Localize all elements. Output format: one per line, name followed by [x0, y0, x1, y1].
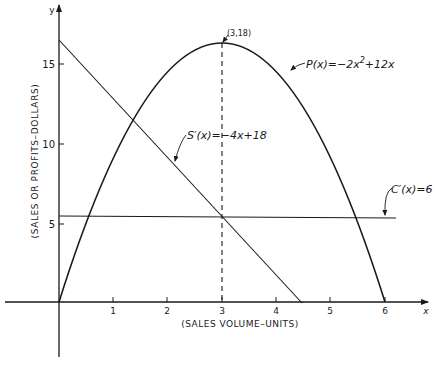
x-tick-labels: 1 2 3 4 5 6	[110, 306, 388, 316]
s-prime-label: S′(x)=−4x+18	[187, 129, 267, 142]
p-curve-label: P(x)=−2x2+12x	[306, 56, 395, 71]
y-tick-labels: 5 10 15	[42, 59, 55, 230]
chart: 1 2 3 4 5 6 5 10 15 y x (SALES VOLUME–UN…	[0, 0, 435, 365]
s-prime-line	[59, 40, 302, 303]
x-tick-label: 3	[219, 306, 225, 316]
peak-label: (3,18)	[227, 29, 251, 38]
x-tick-label: 2	[164, 306, 170, 316]
y-ticks	[59, 64, 64, 224]
x-tick-label: 1	[110, 306, 116, 316]
chart-canvas: 1 2 3 4 5 6 5 10 15 y x (SALES VOLUME–UN…	[0, 0, 435, 365]
y-axis-letter: y	[49, 5, 55, 15]
c-prime-line	[59, 216, 396, 218]
p-label-main: P(x)=−2x	[306, 58, 360, 71]
y-tick-label: 10	[42, 139, 55, 150]
y-tick-label: 15	[42, 59, 55, 70]
x-ticks	[113, 297, 385, 302]
s-label-pointer	[175, 135, 186, 161]
x-tick-label: 5	[327, 306, 333, 316]
y-axis-title: (SALES OR PROFITS–DOLLARS)	[30, 84, 40, 239]
y-tick-label: 5	[49, 219, 55, 230]
c-prime-label: C′(x)=6	[391, 183, 433, 196]
x-axis-letter: x	[422, 306, 429, 316]
p-label-pointer	[291, 63, 305, 70]
p-label-tail: +12x	[365, 58, 395, 71]
x-axis-title: (SALES VOLUME–UNITS)	[181, 319, 299, 329]
x-tick-label: 4	[273, 306, 279, 316]
x-tick-label: 6	[382, 306, 388, 316]
